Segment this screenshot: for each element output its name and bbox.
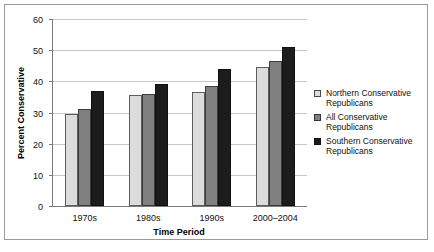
plot-area: 0102030405060 1970s1980s1990s2000–2004 <box>52 19 307 207</box>
bar-group: 2000–2004 <box>244 19 308 206</box>
bar[interactable] <box>142 94 155 206</box>
bar-group: 1980s <box>117 19 181 206</box>
y-axis-tick-label: 20 <box>33 140 43 149</box>
bar[interactable] <box>91 91 104 206</box>
bar-group: 1990s <box>180 19 244 206</box>
legend-item[interactable]: Northern Conservative Republicans <box>314 88 430 108</box>
y-axis-tick: 0 <box>49 206 53 207</box>
chart-legend: Northern Conservative RepublicansAll Con… <box>314 88 430 160</box>
legend-label: Southern Conservative Republicans <box>326 136 430 156</box>
chart-frame: Percent Conservative 0102030405060 1970s… <box>4 4 428 240</box>
bar[interactable] <box>205 86 218 206</box>
legend-item[interactable]: All Conservative Republicans <box>314 112 430 132</box>
y-axis-title: Percent Conservative <box>14 19 28 206</box>
y-axis-tick-label: 30 <box>33 109 43 118</box>
bar[interactable] <box>218 69 231 206</box>
y-axis-tick-label: 60 <box>33 16 43 25</box>
bar[interactable] <box>282 47 295 206</box>
bar[interactable] <box>192 92 205 206</box>
x-axis-tick-label: 2000–2004 <box>253 213 298 223</box>
bar[interactable] <box>65 114 78 206</box>
legend-swatch-icon <box>314 90 321 97</box>
bar[interactable] <box>269 61 282 206</box>
legend-label: All Conservative Republicans <box>326 112 430 132</box>
bar-groups: 1970s1980s1990s2000–2004 <box>53 19 307 206</box>
x-axis-title: Time Period <box>52 227 306 237</box>
bar-group: 1970s <box>53 19 117 206</box>
y-axis-tick-label: 50 <box>33 47 43 56</box>
legend-item[interactable]: Southern Conservative Republicans <box>314 136 430 156</box>
x-axis-tick-label: 1990s <box>199 213 224 223</box>
y-axis-tick-label: 10 <box>33 171 43 180</box>
legend-swatch-icon <box>314 138 321 145</box>
y-axis-tick-label: 0 <box>38 203 43 212</box>
bar[interactable] <box>155 84 168 206</box>
y-axis-tick-label: 40 <box>33 78 43 87</box>
bar[interactable] <box>78 109 91 206</box>
x-axis-tick-label: 1970s <box>72 213 97 223</box>
legend-swatch-icon <box>314 114 321 121</box>
bar[interactable] <box>129 95 142 206</box>
legend-label: Northern Conservative Republicans <box>326 88 430 108</box>
bar[interactable] <box>256 67 269 206</box>
x-axis-tick-label: 1980s <box>136 213 161 223</box>
